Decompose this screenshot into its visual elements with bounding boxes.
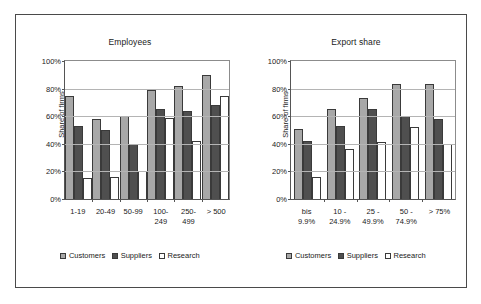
legend-item-customers[interactable]: Customers bbox=[60, 251, 105, 260]
bar-research bbox=[138, 171, 147, 199]
bar-research bbox=[83, 178, 92, 199]
x-axis-label: 10 -24.9% bbox=[323, 205, 356, 239]
bar-research bbox=[220, 96, 229, 200]
legend-label: Research bbox=[167, 251, 199, 260]
plot-area-export-share: 0%20%40%60%80%100% bbox=[290, 60, 456, 200]
y-axis-tickmark bbox=[288, 144, 291, 145]
legend-item-research[interactable]: Research bbox=[159, 251, 200, 260]
bar-group bbox=[92, 61, 119, 199]
plot-area-employees: 0%20%40%60%80%100% bbox=[64, 60, 230, 200]
bar-customers bbox=[202, 75, 211, 199]
gridline bbox=[65, 89, 229, 90]
legend-swatch-customers-icon bbox=[60, 253, 66, 259]
bar-suppliers bbox=[434, 119, 443, 199]
bar-customers bbox=[174, 86, 183, 199]
legend-item-suppliers[interactable]: Suppliers bbox=[112, 251, 152, 260]
bar-customers bbox=[392, 84, 401, 199]
x-axis-label: > 75% bbox=[423, 205, 456, 239]
gridline bbox=[291, 171, 455, 172]
bar-research bbox=[312, 177, 321, 199]
bar-groups-employees bbox=[65, 61, 229, 199]
legend-export-share: CustomersSuppliersResearch bbox=[244, 251, 468, 260]
bar-group bbox=[147, 61, 174, 199]
chart-panel-employees: Employees Share of firms 0%20%40%60%80%1… bbox=[16, 15, 244, 289]
legend-item-research[interactable]: Research bbox=[385, 251, 426, 260]
x-axis-label: 1-19 bbox=[64, 205, 92, 239]
x-axis-labels-export-share: bis9.9%10 -24.9%25 -49.9%50 -74.9%> 75% bbox=[290, 205, 456, 239]
gridline bbox=[291, 116, 455, 117]
bar-customers bbox=[425, 84, 434, 199]
x-axis-tickmark bbox=[120, 199, 121, 202]
legend-swatch-research-icon bbox=[385, 253, 391, 259]
bar-group bbox=[422, 61, 455, 199]
bar-suppliers bbox=[74, 126, 83, 199]
x-axis-label: 100-249 bbox=[147, 205, 175, 239]
gridline bbox=[65, 116, 229, 117]
chart-title-export-share: Export share bbox=[244, 37, 468, 47]
x-axis-tickmark bbox=[389, 199, 390, 202]
legend-swatch-customers-icon bbox=[286, 253, 292, 259]
bar-research bbox=[110, 177, 119, 199]
y-axis-tickmark bbox=[62, 89, 65, 90]
legend-employees: CustomersSuppliersResearch bbox=[16, 251, 244, 260]
x-axis-tickmark bbox=[422, 199, 423, 202]
bar-customers bbox=[65, 96, 74, 200]
bar-suppliers bbox=[211, 105, 220, 199]
bar-customers bbox=[294, 129, 303, 199]
y-axis-tickmark bbox=[288, 89, 291, 90]
bar-suppliers bbox=[183, 111, 192, 199]
y-axis-tick-100: 100% bbox=[268, 57, 287, 66]
y-axis-tick-0: 0% bbox=[276, 195, 287, 204]
bar-group bbox=[65, 61, 92, 199]
x-axis-label: bis9.9% bbox=[290, 205, 323, 239]
gridline bbox=[291, 144, 455, 145]
y-axis-tickmark bbox=[62, 199, 65, 200]
bar-group bbox=[324, 61, 357, 199]
bar-groups-export-share bbox=[291, 61, 455, 199]
x-axis-tickmark bbox=[202, 199, 203, 202]
y-axis-tickmark bbox=[62, 171, 65, 172]
bar-suppliers bbox=[336, 126, 345, 199]
bar-suppliers bbox=[156, 109, 165, 199]
legend-label: Suppliers bbox=[347, 251, 378, 260]
y-axis-tick-60: 60% bbox=[46, 112, 61, 121]
y-axis-tickmark bbox=[288, 61, 291, 62]
x-axis-label: 50-99 bbox=[119, 205, 147, 239]
y-axis-tickmark bbox=[62, 116, 65, 117]
chart-panel-export-share: Export share Share of firms 0%20%40%60%8… bbox=[244, 15, 468, 289]
bar-suppliers bbox=[101, 130, 110, 199]
gridline bbox=[291, 89, 455, 90]
figure-frame: Employees Share of firms 0%20%40%60%80%1… bbox=[15, 14, 467, 288]
x-axis-label: > 500 bbox=[202, 205, 230, 239]
bar-customers bbox=[92, 119, 101, 199]
y-axis-tickmark bbox=[288, 116, 291, 117]
bar-suppliers bbox=[368, 109, 377, 199]
y-axis-tick-20: 20% bbox=[272, 167, 287, 176]
bar-research bbox=[165, 118, 174, 199]
x-axis-tickmark bbox=[92, 199, 93, 202]
x-axis-tickmark bbox=[147, 199, 148, 202]
bar-customers bbox=[327, 109, 336, 199]
legend-swatch-research-icon bbox=[159, 253, 165, 259]
bar-research bbox=[345, 149, 354, 199]
x-axis-label: 50 -74.9% bbox=[390, 205, 423, 239]
figure-root: Employees Share of firms 0%20%40%60%80%1… bbox=[0, 0, 481, 304]
bar-research bbox=[192, 141, 201, 199]
x-axis-label: 25 -49.9% bbox=[356, 205, 389, 239]
legend-item-suppliers[interactable]: Suppliers bbox=[338, 251, 378, 260]
legend-label: Customers bbox=[295, 251, 331, 260]
y-axis-tick-0: 0% bbox=[50, 195, 61, 204]
x-axis-labels-employees: 1-1920-4950-99100-249250-499> 500 bbox=[64, 205, 230, 239]
y-axis-tickmark bbox=[288, 199, 291, 200]
legend-item-customers[interactable]: Customers bbox=[286, 251, 331, 260]
x-axis-label: 20-49 bbox=[92, 205, 120, 239]
x-axis-tickmark bbox=[324, 199, 325, 202]
y-axis-tick-80: 80% bbox=[46, 84, 61, 93]
y-axis-tick-40: 40% bbox=[272, 139, 287, 148]
legend-swatch-suppliers-icon bbox=[338, 253, 344, 259]
bar-suppliers bbox=[303, 141, 312, 199]
bar-group bbox=[120, 61, 147, 199]
y-axis-tickmark bbox=[62, 144, 65, 145]
y-axis-tick-20: 20% bbox=[46, 167, 61, 176]
bar-research bbox=[410, 127, 419, 199]
